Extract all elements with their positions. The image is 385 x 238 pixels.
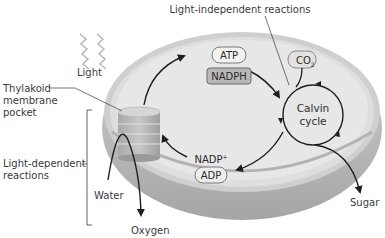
sugar-label: Sugar bbox=[350, 197, 380, 208]
light-rays-icon bbox=[80, 34, 106, 69]
light-dependent-label-2: reactions bbox=[3, 170, 49, 181]
water-label: Water bbox=[94, 190, 124, 201]
thylakoid-label-1: Thylakoid bbox=[2, 83, 51, 94]
nadph-molecule: NADPH bbox=[207, 68, 251, 84]
calvin-label-1: Calvin bbox=[297, 102, 329, 114]
nadph-label: NADPH bbox=[211, 71, 247, 82]
adp-label: ADP bbox=[201, 170, 222, 181]
adp-molecule: ADP bbox=[195, 167, 227, 183]
calvin-label-2: cycle bbox=[299, 115, 326, 127]
atp-label: ATP bbox=[220, 50, 238, 61]
light-dependent-bracket bbox=[87, 110, 92, 225]
thylakoid-label-3: pocket bbox=[3, 107, 37, 118]
light-label: Light bbox=[77, 67, 102, 78]
chloroplast-diagram: Calvin cycle CO2 ATP NADPH NADP+ ADP Lig… bbox=[0, 0, 385, 238]
thylakoid-label-2: membrane bbox=[3, 95, 58, 106]
oxygen-label: Oxygen bbox=[131, 225, 170, 236]
atp-molecule: ATP bbox=[212, 47, 246, 63]
light-dependent-label-1: Light-dependent bbox=[3, 158, 86, 169]
light-independent-label: Light-independent reactions bbox=[170, 4, 311, 15]
